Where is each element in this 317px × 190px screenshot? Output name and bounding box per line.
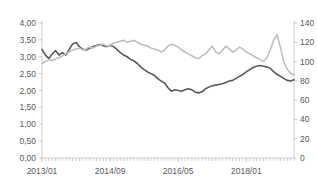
x-axis-tick-label: 2013/01 [27, 166, 58, 176]
y2-axis-tick-label: 60 [300, 95, 310, 105]
y-axis-tick-label: 2,00 [19, 86, 36, 96]
y-axis-tick-label: 3,50 [19, 35, 36, 45]
y2-axis-tick-label: 100 [300, 57, 314, 67]
y2-axis-tick-label: 40 [300, 114, 310, 124]
y2-axis-tick-label: 20 [300, 134, 310, 144]
series-line-dark-series [42, 43, 294, 93]
y-axis-tick-label: 0,00 [19, 153, 36, 163]
series-line-light-series [42, 35, 294, 76]
right-axis: 020406080100120140 [294, 18, 314, 163]
y-axis-tick-label: 2,50 [19, 69, 36, 79]
x-axis-tick-label: 2014/09 [95, 166, 126, 176]
x-axis-tick-label: 2018/01 [231, 166, 262, 176]
y-axis-tick-label: 1,00 [19, 119, 36, 129]
x-axis-tick-label: 2016/05 [163, 166, 194, 176]
y2-axis-tick-label: 140 [300, 18, 314, 28]
chart-container: 0,000,501,001,502,002,503,003,504,00 020… [0, 0, 317, 190]
y-axis-tick-label: 0,50 [19, 136, 36, 146]
x-axis: 2013/012014/092016/052018/01 [27, 158, 294, 176]
y-axis-tick-label: 4,00 [19, 18, 36, 28]
y2-axis-tick-label: 120 [300, 37, 314, 47]
series-group [42, 35, 294, 93]
y-axis-tick-label: 3,00 [19, 52, 36, 62]
dual-axis-line-chart: 0,000,501,001,502,002,503,003,504,00 020… [0, 0, 317, 190]
left-axis: 0,000,501,001,502,002,503,003,504,00 [19, 18, 42, 163]
y2-axis-tick-label: 80 [300, 76, 310, 86]
y-axis-tick-label: 1,50 [19, 102, 36, 112]
y2-axis-tick-label: 0 [300, 153, 305, 163]
